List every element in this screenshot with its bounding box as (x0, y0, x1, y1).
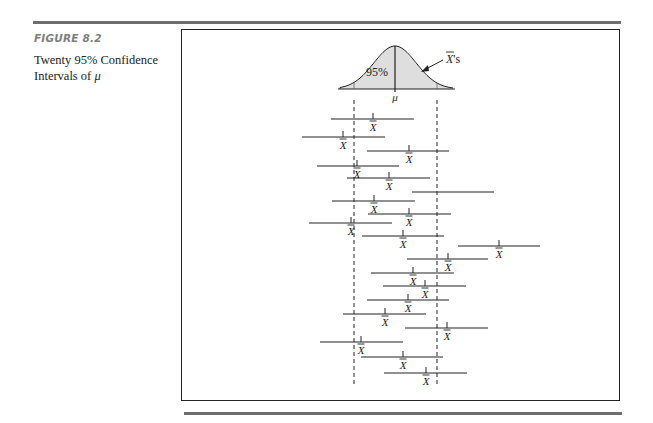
interval-20: X (384, 367, 467, 387)
interval-2: X (302, 131, 385, 151)
sample-mean-label: X (381, 316, 390, 328)
sample-mean-label: X (421, 288, 430, 300)
interval-17: X (405, 322, 488, 342)
interval-7: X (332, 195, 415, 215)
interval-9: X (309, 217, 392, 237)
interval-8: X (368, 208, 451, 228)
sample-mean-label: X (369, 121, 378, 133)
sampling-distribution-curve: 95%μX's (338, 46, 461, 103)
sample-mean-label: X (385, 180, 394, 192)
interval-13: X (371, 267, 454, 287)
sample-mean-label: X (399, 359, 408, 371)
sample-mean-label: X (404, 302, 413, 314)
sample-mean-label: X (339, 139, 348, 151)
confidence-interval-plot: 95%μX's XXXXXXXXXXXXXXXXXXX (0, 0, 653, 423)
interval-11: X (458, 240, 540, 260)
sample-mean-label: X (370, 203, 379, 215)
interval-12: X (407, 253, 488, 273)
interval-3: X (367, 145, 449, 165)
interval-4: X (317, 160, 399, 180)
interval-14: X (383, 280, 466, 300)
xbar-plural-label: X's (445, 52, 461, 66)
sample-mean-label: X (399, 238, 408, 250)
interval-list: XXXXXXXXXXXXXXXXXXX (302, 113, 540, 387)
sample-mean-label: X (495, 248, 504, 260)
sample-mean-label: X (444, 261, 453, 273)
mu-label: μ (391, 91, 398, 103)
sample-mean-label: X (357, 344, 366, 356)
sample-mean-label: X (409, 275, 418, 287)
bottom-rule (184, 412, 622, 415)
interval-18: X (320, 336, 403, 356)
interval-19: X (361, 351, 443, 371)
sample-mean-label: X (443, 330, 452, 342)
sample-mean-label: X (422, 375, 431, 387)
sample-mean-label: X (405, 216, 414, 228)
sample-mean-label: X (405, 153, 414, 165)
interval-16: X (343, 308, 426, 328)
sample-mean-label: X (347, 225, 356, 237)
confidence-label: 95% (366, 65, 388, 79)
interval-1: X (331, 113, 414, 133)
arrow-head-icon (421, 65, 429, 72)
interval-10: X (362, 230, 444, 250)
